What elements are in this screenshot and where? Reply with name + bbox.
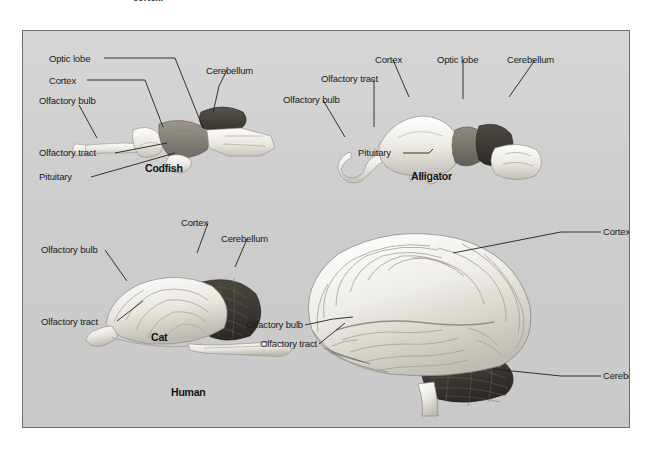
human-label-cortex: Cortex — [603, 226, 630, 237]
human-label-cerebellum: Cerebellum — [603, 370, 630, 381]
cat-label-olfactory-bulb: Olfactory bulb — [41, 244, 98, 255]
alligator-label-cortex: Cortex — [375, 54, 402, 65]
human-species-label: Human — [171, 386, 206, 398]
alligator-label-optic-lobe: Optic lobe — [437, 54, 478, 65]
caption-text-fragment: cortex. — [133, 0, 163, 3]
cat-label-cerebellum: Cerebellum — [221, 233, 268, 244]
codfish-label-olfactory-tract: Olfactory tract — [39, 147, 96, 158]
human-label-olfactory-bulb: Olfactory bulb — [246, 319, 303, 330]
cat-label-olfactory-tract: Olfactory tract — [41, 316, 98, 327]
codfish-label-optic-lobe: Optic lobe — [49, 53, 90, 64]
alligator-label-cerebellum: Cerebellum — [507, 54, 554, 65]
codfish-label-cerebellum: Cerebellum — [206, 65, 253, 76]
alligator-label-olfactory-bulb: Olfactory bulb — [283, 94, 340, 105]
alligator-label-pituitary: Pituitary — [358, 147, 391, 158]
comparative-brain-figure-panel: Optic lobe Cortex Olfactory bulb Cerebel… — [22, 30, 630, 428]
codfish-species-label: Codfish — [145, 162, 183, 174]
alligator-label-olfactory-tract: Olfactory tract — [321, 73, 378, 84]
cat-species-label: Cat — [151, 331, 167, 343]
human-label-olfactory-tract: Olfactory tract — [260, 338, 317, 349]
alligator-species-label: Alligator — [411, 170, 452, 182]
human-brain-illustration — [278, 226, 578, 421]
codfish-label-cortex: Cortex — [49, 75, 76, 86]
codfish-label-olfactory-bulb: Olfactory bulb — [39, 95, 96, 106]
cat-label-cortex: Cortex — [181, 217, 208, 228]
codfish-label-pituitary: Pituitary — [39, 171, 72, 182]
